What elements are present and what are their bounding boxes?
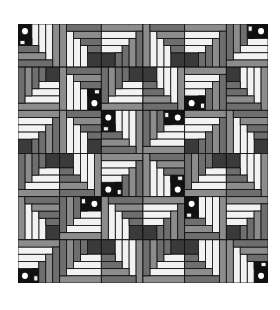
quilt-block-dot <box>185 197 227 240</box>
quilt-block-dot <box>226 240 268 283</box>
quilt-block <box>60 154 102 197</box>
quilt-block <box>185 240 227 283</box>
quilt-block-dot <box>185 67 227 110</box>
quilt-block <box>185 24 227 67</box>
quilt-block <box>18 154 60 197</box>
quilt-block <box>226 110 268 153</box>
quilt-block <box>185 154 227 197</box>
quilt-block-dot <box>18 24 60 67</box>
quilt-svg <box>18 24 268 283</box>
quilt-block <box>101 197 143 240</box>
quilt-block <box>101 24 143 67</box>
quilt-block <box>60 240 102 283</box>
quilt-block <box>60 110 102 153</box>
quilt-block <box>226 154 268 197</box>
quilt-block <box>226 197 268 240</box>
quilt-block <box>143 197 185 240</box>
quilt-block <box>101 240 143 283</box>
quilt-block-dot <box>60 197 102 240</box>
quilt-block <box>18 197 60 240</box>
quilt-block <box>143 240 185 283</box>
quilt-block <box>226 67 268 110</box>
quilt-block-dot <box>101 110 143 153</box>
quilt-block <box>185 110 227 153</box>
quilt-block <box>18 67 60 110</box>
quilt-block <box>101 67 143 110</box>
quilt-block-dot <box>143 110 185 153</box>
quilt-block-dot <box>60 67 102 110</box>
quilt-block-dot <box>143 154 185 197</box>
quilt-block <box>60 24 102 67</box>
quilt-block <box>143 67 185 110</box>
quilt-block <box>18 110 60 153</box>
quilt-pattern <box>18 24 268 283</box>
quilt-block-dot <box>226 24 268 67</box>
quilt-block <box>143 24 185 67</box>
quilt-block-dot <box>18 240 60 283</box>
quilt-block-dot <box>101 154 143 197</box>
